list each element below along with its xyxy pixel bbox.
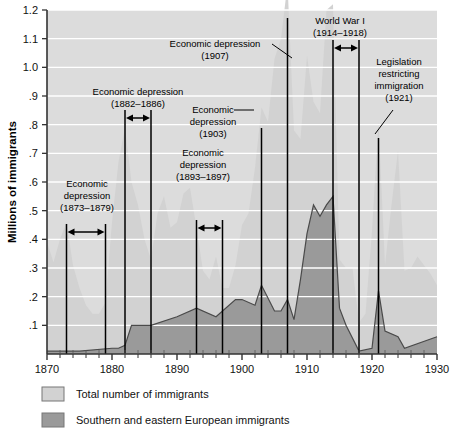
- x-tick-label: 1880: [100, 363, 124, 375]
- legend-label-southern-eastern: Southern and eastern European immigrants: [76, 414, 290, 426]
- y-tick-label: .5: [29, 205, 38, 217]
- x-tick-label: 1910: [295, 363, 319, 375]
- annotation-line: (1893–1897): [176, 171, 230, 182]
- annotation-line: Legislation: [376, 56, 421, 67]
- annotation-world-war-one: World War I (1914–1918): [313, 15, 367, 38]
- annotation-line: depression: [180, 159, 226, 170]
- annotation-line: (1921): [385, 92, 412, 103]
- annotation-line: Economic: [66, 178, 108, 189]
- y-tick-label: .3: [29, 262, 38, 274]
- y-tick-label: 1.0: [23, 61, 38, 73]
- y-tick-label: .9: [29, 90, 38, 102]
- legend-label-total: Total number of immigrants: [76, 388, 209, 400]
- y-tick-label: .1: [29, 319, 38, 331]
- annotation-line: immigration: [374, 80, 423, 91]
- annotation-line: restricting: [378, 68, 419, 79]
- annotation-depression-1873: Economic depression (1873–1879): [60, 178, 114, 213]
- annotation-line: depression: [190, 116, 236, 127]
- y-tick-label: .2: [29, 291, 38, 303]
- annotation-line: (1914–1918): [313, 27, 367, 38]
- y-tick-label: .7: [29, 147, 38, 159]
- x-tick-label: 1900: [230, 363, 254, 375]
- annotation-line: World War I: [315, 15, 365, 26]
- y-axis-title: Millions of immigrants: [6, 121, 18, 243]
- annotation-line: (1873–1879): [60, 202, 114, 213]
- x-tick-label: 1890: [165, 363, 189, 375]
- y-tick-label: .6: [29, 176, 38, 188]
- annotation-line: (1907): [201, 50, 228, 61]
- y-tick-label: .4: [29, 233, 38, 245]
- immigration-chart-figure: 1.21.11.0.9.8.7.6.5.4.3.2.11870188018901…: [0, 0, 459, 436]
- annotation-line: Economic depression: [170, 38, 261, 49]
- annotation-line: Economic: [182, 147, 224, 158]
- annotation-line: (1903): [199, 128, 226, 139]
- annotation-line: Economic: [192, 104, 234, 115]
- legend-swatch-southern-eastern: [42, 413, 64, 427]
- x-tick-label: 1870: [35, 363, 59, 375]
- y-tick-label: 1.1: [23, 33, 38, 45]
- chart-legend: Total number of immigrants Southern and …: [42, 387, 290, 427]
- y-tick-label: 1.2: [23, 4, 38, 16]
- annotation-line: (1882–1886): [111, 98, 165, 109]
- chart-canvas: 1.21.11.0.9.8.7.6.5.4.3.2.11870188018901…: [0, 0, 459, 436]
- annotation-line: depression: [64, 190, 110, 201]
- x-tick-label: 1930: [425, 363, 449, 375]
- annotation-depression-1893: Economic depression (1893–1897): [176, 147, 230, 182]
- x-tick-label: 1920: [360, 363, 384, 375]
- y-tick-label: .8: [29, 119, 38, 131]
- annotation-line: Economic depression: [93, 86, 184, 97]
- legend-swatch-total: [42, 387, 64, 401]
